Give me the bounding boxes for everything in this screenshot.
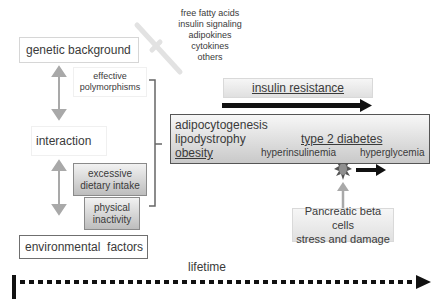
factor-item: insulin signaling <box>170 19 250 30</box>
genetic-background-label: genetic background <box>26 43 131 57</box>
factor-item: adipokines <box>170 30 250 41</box>
effective-polymorphisms-box: effective polymorphisms <box>73 67 147 97</box>
bracket <box>149 80 162 206</box>
lipodystrophy-label: lipodystrophy <box>175 132 246 146</box>
obesity-label: obesity <box>175 146 213 160</box>
lifetime-label: lifetime <box>188 260 226 274</box>
factors-list: free fatty acids insulin signaling adipo… <box>170 8 250 63</box>
lifetime-timeline <box>12 275 431 299</box>
effective-polymorphisms-line2: polymorphisms <box>80 82 141 93</box>
hyperglycemia-label: hyperglycemia <box>360 147 424 159</box>
environmental-factors-box: environmental factors <box>19 235 148 259</box>
excessive-line1: excessive <box>88 168 132 180</box>
insulin-resistance-box: insulin resistance <box>223 78 373 98</box>
pancreatic-line2: stress and damage <box>296 232 390 246</box>
main-conditions-box: adipocytogenesis lipodystrophy obesity t… <box>170 114 430 164</box>
interaction-label: interaction <box>36 134 91 148</box>
physical-line2: inactivity <box>93 214 131 226</box>
hyperglycemia-arrow <box>356 164 386 176</box>
pancreatic-line1: Pancreatic beta cells <box>293 204 393 232</box>
environmental-factors-label: environmental factors <box>25 240 143 254</box>
adipocytogenesis-label: adipocytogenesis <box>175 118 268 132</box>
excessive-line2: dietary intake <box>80 180 139 192</box>
factor-item: free fatty acids <box>170 8 250 19</box>
factor-item: others <box>170 52 250 63</box>
hyperinsulinemia-label: hyperinsulinemia <box>261 147 336 159</box>
physical-line1: physical <box>94 202 130 214</box>
type2-diabetes-label: type 2 diabetes <box>301 132 382 146</box>
double-arrow-interaction-environmental <box>53 161 65 214</box>
excessive-dietary-intake-box: excessive dietary intake <box>73 163 147 196</box>
pancreatic-beta-cells-box: Pancreatic beta cells stress and damage <box>292 208 394 242</box>
insulin-resistance-arrow <box>222 99 372 112</box>
physical-inactivity-box: physical inactivity <box>84 197 140 230</box>
effective-polymorphisms-line1: effective <box>93 71 126 82</box>
factor-item: cytokines <box>170 41 250 52</box>
genetic-background-box: genetic background <box>19 37 139 63</box>
double-arrow-genetic-interaction <box>53 67 65 119</box>
insulin-resistance-label: insulin resistance <box>252 81 344 95</box>
interaction-box: interaction <box>31 126 107 156</box>
